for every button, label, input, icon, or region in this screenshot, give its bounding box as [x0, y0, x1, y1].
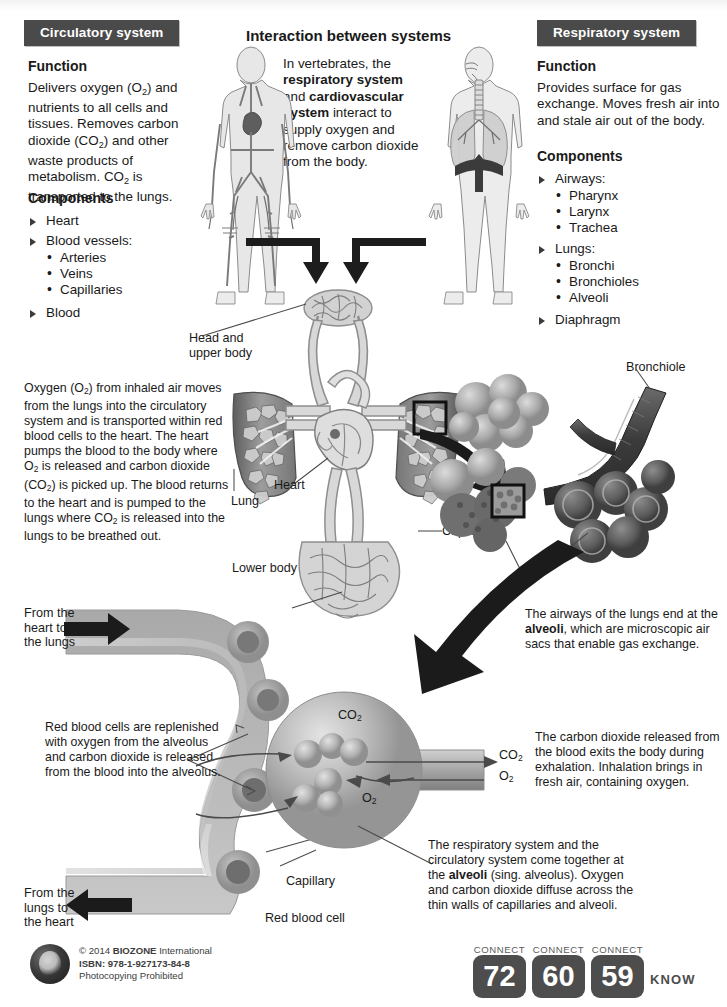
list-item: Arteries: [46, 250, 198, 266]
leader-together-note: [358, 826, 432, 864]
respiratory-system-header-label: Respiratory system: [537, 20, 696, 46]
label-head-upper-body: Head and upper body: [189, 331, 252, 360]
component-label: Heart: [46, 213, 79, 228]
respiratory-system-header: Respiratory system: [537, 20, 696, 46]
scan-band: [0, 0, 727, 12]
connect-label: CONNECT: [532, 944, 585, 955]
list-item: Trachea: [555, 220, 722, 236]
connect-number: 59: [591, 955, 644, 998]
footer-copyright-text: © 2014 BIOZONE International ISBN: 978-1…: [79, 945, 212, 983]
exhalation-note: The carbon dioxide released from the blo…: [535, 730, 725, 790]
intro-bold-cardiovascular: cardiovascular: [309, 89, 404, 104]
list-item: Heart: [28, 213, 198, 229]
list-item: Alveoli: [555, 290, 722, 306]
zoom-arrow-to-alveolus: [330, 530, 560, 710]
respiratory-components-list: Airways: Pharynx Larynx Trachea Lungs: B…: [537, 171, 722, 328]
worksheet-page: Circulatory system Function Delivers oxy…: [0, 0, 727, 1007]
connect-badges: CONNECT 72 CONNECT 60 CONNECT 59 KNOW: [473, 944, 696, 998]
connect-badge[interactable]: CONNECT 59: [591, 944, 644, 998]
isbn-line: ISBN: 978-1-927173-84-8: [79, 958, 212, 971]
circulatory-components-heading: Components: [28, 190, 198, 206]
label-co2-exhaled: CO2: [499, 748, 523, 766]
arrow-left-down-icon: [246, 238, 329, 284]
circulatory-function-text: Delivers oxygen (O2) and nutrients to al…: [28, 80, 193, 205]
circulatory-function-heading: Function: [28, 58, 193, 74]
label-from-heart-to-lungs: From the heart to the lungs: [24, 606, 75, 650]
list-item: Larynx: [555, 204, 722, 220]
together-note: The respiratory system and the circulato…: [428, 838, 643, 913]
circulatory-components-list: Heart Blood vessels: Arteries Veins Capi…: [28, 213, 198, 321]
respiratory-components-heading: Components: [537, 148, 722, 164]
rbc-note: Red blood cells are replenished with oxy…: [45, 720, 225, 780]
component-sublist: Bronchi Bronchioles Alveoli: [555, 258, 722, 307]
component-sublist: Pharynx Larynx Trachea: [555, 188, 722, 237]
label-from-lungs-to-heart: From the lungs to the heart: [24, 886, 74, 930]
transport-paragraph: Oxygen (O2) from inhaled air moves from …: [24, 381, 234, 544]
alveolar-sac-upper: [449, 374, 549, 452]
co2-out-arrow-icon: [484, 756, 498, 768]
red-blood-cell: [227, 621, 269, 663]
intro-line-3: interact to: [333, 105, 392, 120]
connect-badge[interactable]: CONNECT 60: [532, 944, 585, 998]
component-sublist: Arteries Veins Capillaries: [46, 250, 198, 299]
list-item: Pharynx: [555, 188, 722, 204]
leader-bronchiole: [636, 369, 650, 389]
label-o2-inside: O2: [362, 791, 377, 809]
component-label: Blood: [46, 305, 80, 320]
know-label: KNOW: [650, 972, 696, 987]
list-item: Bronchioles: [555, 274, 722, 290]
footer-copyright: © 2014 BIOZONE International ISBN: 978-1…: [30, 944, 212, 984]
page-title: Interaction between systems: [246, 27, 451, 44]
component-label: Lungs:: [555, 241, 595, 256]
big-arrow-icon: [414, 540, 584, 694]
list-item: Veins: [46, 266, 198, 282]
list-item: Bronchi: [555, 258, 722, 274]
label-heart: Heart: [274, 478, 305, 493]
copyright-line: © 2014 BIOZONE International: [79, 945, 212, 958]
connect-badge[interactable]: CONNECT 72: [473, 944, 526, 998]
red-blood-cell: [216, 850, 260, 894]
label-co2-inside: CO2: [338, 708, 362, 726]
respiratory-function-heading: Function: [537, 58, 722, 74]
list-item: Capillaries: [46, 282, 198, 298]
component-label: Blood vessels:: [46, 233, 132, 248]
connect-number: 72: [473, 955, 526, 998]
arrow-right-down-icon: [343, 238, 426, 284]
flow-arrows-down: [246, 236, 426, 292]
respiratory-components-block: Components Airways: Pharynx Larynx Trach…: [537, 148, 722, 332]
respiratory-function-text: Provides surface for gas exchange. Moves…: [537, 80, 722, 129]
photocopying-line: Photocopying Prohibited: [79, 970, 212, 983]
label-red-blood-cell: Red blood cell: [265, 911, 345, 926]
list-item: Airways: Pharynx Larynx Trachea: [537, 171, 722, 237]
connect-label: CONNECT: [473, 944, 526, 955]
connect-label: CONNECT: [591, 944, 644, 955]
list-item: Lungs: Bronchi Bronchioles Alveoli: [537, 241, 722, 307]
connect-number: 60: [532, 955, 585, 998]
label-lower-body: Lower body: [232, 561, 297, 576]
circulatory-components-block: Components Heart Blood vessels: Arteries…: [28, 190, 198, 325]
label-o2-inhaled: O2: [499, 769, 514, 787]
circulatory-function-block: Function Delivers oxygen (O2) and nutrie…: [28, 58, 193, 205]
circulatory-system-header-label: Circulatory system: [24, 20, 179, 46]
respiratory-function-block: Function Provides surface for gas exchan…: [537, 58, 722, 129]
component-label: Diaphragm: [555, 312, 621, 327]
list-item: Diaphragm: [537, 312, 722, 328]
list-item: Blood vessels: Arteries Veins Capillarie…: [28, 233, 198, 299]
human-figure-respiratory: [424, 46, 534, 311]
component-label: Airways:: [555, 171, 606, 186]
circulatory-system-header: Circulatory system: [24, 20, 179, 46]
biozone-logo-icon: [30, 944, 70, 984]
label-lung-left: Lung: [231, 494, 259, 509]
list-item: Blood: [28, 305, 198, 321]
